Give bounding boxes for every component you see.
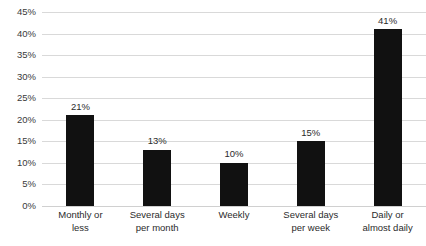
x-axis: Monthly or lessSeveral days per monthWee… — [42, 209, 426, 246]
bar-value-label: 21% — [71, 102, 90, 112]
bar-group: 21% — [42, 12, 119, 206]
y-axis-tick-label: 10% — [0, 158, 36, 168]
bar-group: 13% — [119, 12, 196, 206]
bar — [374, 29, 402, 206]
bar-value-label: 13% — [148, 136, 167, 146]
x-axis-category-label: Several days per week — [272, 209, 349, 234]
y-axis-tick-label: 25% — [0, 93, 36, 103]
y-axis-tick-label: 35% — [0, 50, 36, 60]
y-axis-tick-label: 5% — [0, 180, 36, 190]
bar-group: 41% — [349, 12, 426, 206]
bar-chart: 45%40%35%30%25%20%15%10%5%0% 21%13%10%15… — [0, 0, 426, 246]
bar-value-label: 15% — [301, 128, 320, 138]
plot-area: 21%13%10%15%41% — [42, 12, 426, 206]
x-axis-category-label: Monthly or less — [42, 209, 119, 234]
x-axis-category-label: Daily or almost daily — [349, 209, 426, 234]
bar-group: 10% — [196, 12, 273, 206]
bar-value-label: 41% — [378, 16, 397, 26]
y-axis: 45%40%35%30%25%20%15%10%5%0% — [0, 12, 36, 206]
bar — [66, 115, 94, 206]
gridline — [42, 206, 426, 207]
bar — [297, 141, 325, 206]
y-axis-tick-label: 15% — [0, 137, 36, 147]
y-axis-tick-label: 20% — [0, 115, 36, 125]
y-axis-tick-label: 40% — [0, 29, 36, 39]
x-axis-category-label: Weekly — [196, 209, 273, 222]
bar — [220, 163, 248, 206]
bar-value-label: 10% — [224, 149, 243, 159]
x-axis-category-label: Several days per month — [119, 209, 196, 234]
y-axis-tick-label: 45% — [0, 7, 36, 17]
bar — [143, 150, 171, 206]
y-axis-tick-label: 30% — [0, 72, 36, 82]
bar-group: 15% — [272, 12, 349, 206]
y-axis-tick-label: 0% — [0, 201, 36, 211]
